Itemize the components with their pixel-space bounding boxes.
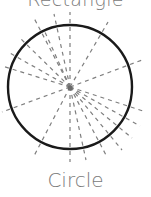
symmetry-lines [2,12,146,162]
shape-label: Circle [0,168,151,192]
center-point [68,86,73,91]
